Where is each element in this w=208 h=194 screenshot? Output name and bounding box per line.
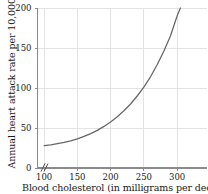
svg-text:0: 0 <box>26 163 31 173</box>
chart-plot-area: 050100150200 100150200250300 <box>0 0 208 194</box>
svg-text:150: 150 <box>69 172 85 182</box>
svg-text:250: 250 <box>136 172 152 182</box>
svg-text:200: 200 <box>15 3 31 13</box>
svg-text:300: 300 <box>169 172 185 182</box>
data-curve <box>44 8 180 146</box>
y-axis-tick-labels: 050100150200 <box>15 3 31 173</box>
svg-text:100: 100 <box>15 83 31 93</box>
svg-text:100: 100 <box>36 172 52 182</box>
x-axis-label: Blood cholesterol (in milligrams per dec… <box>22 182 208 193</box>
horizontal-gridlines <box>38 8 208 128</box>
x-axis-tick-labels: 100150200250300 <box>36 172 185 182</box>
svg-text:50: 50 <box>21 123 32 133</box>
chart-figure: 050100150200 100150200250300 Annual hear… <box>0 0 208 194</box>
y-axis-label: Annual heart attack rate per 10,000 men <box>6 0 17 169</box>
svg-text:150: 150 <box>15 43 31 53</box>
svg-text:200: 200 <box>103 172 119 182</box>
